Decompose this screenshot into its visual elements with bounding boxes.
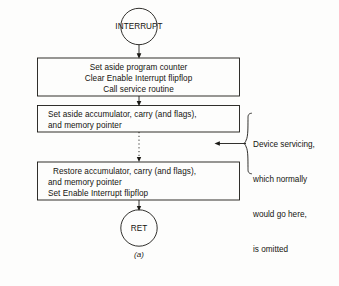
process-box-2-line-2: and memory pointer [48,120,122,131]
end-terminator-label: RET [79,223,199,234]
process-box-3-line-3: Set Enable Interrupt flipflop [48,188,148,199]
process-box-3-line-1: Restore accumulator, carry (and flags), [53,166,196,177]
figure-caption: (a) [109,250,169,259]
flowchart-figure: INTERRUPT Set aside program counter Clea… [0,0,339,286]
process-box-1-line-3: Call service routine [37,84,240,95]
start-terminator-label: INTERRUPT [79,21,199,32]
process-box-1-line-1: Set aside program counter [37,62,240,73]
process-box-2-line-1: Set aside accumulator, carry (and flags)… [48,109,197,120]
process-box-1-line-2: Clear Enable Interrupt flipflop [37,73,240,84]
process-box-3-line-2: and memory pointer [48,177,122,188]
annotation-line-3: would go here, [253,209,337,221]
annotation-text: Device servicing, which normally would g… [253,116,337,278]
annotation-line-1: Device servicing, [253,139,337,151]
annotation-line-4: is omitted [253,244,337,256]
annotation-line-2: which normally [253,174,337,186]
